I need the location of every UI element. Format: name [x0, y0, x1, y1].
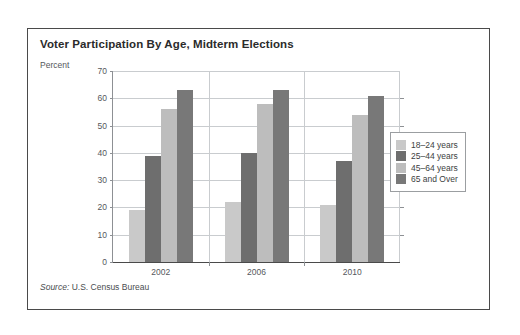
y-axis-tick-mark — [110, 98, 113, 99]
y-axis-tick-mark-right — [400, 126, 404, 127]
y-axis-tick-mark-right — [400, 207, 404, 208]
legend-swatch-icon — [396, 163, 406, 173]
chart-title: Voter Participation By Age, Midterm Elec… — [40, 38, 294, 50]
y-axis-tick-label: 10 — [98, 230, 107, 240]
y-axis-label: Percent — [40, 60, 69, 70]
bar — [241, 153, 257, 262]
y-axis-tick-mark — [110, 235, 113, 236]
chart-legend: 18–24 years25–44 years45–64 years65 and … — [390, 132, 466, 192]
y-axis-tick-label: 70 — [98, 66, 107, 76]
y-axis-tick-mark — [110, 71, 113, 72]
bar — [273, 90, 289, 262]
legend-label: 65 and Over — [411, 174, 458, 184]
legend-item: 45–64 years — [396, 163, 458, 173]
y-axis-tick-label: 50 — [98, 121, 107, 131]
legend-item: 65 and Over — [396, 174, 458, 184]
bar — [320, 205, 336, 262]
chart-figure-frame: Voter Participation By Age, Midterm Elec… — [27, 28, 490, 310]
source-note: Source: U.S. Census Bureau — [40, 282, 149, 292]
x-axis-tick-label: 2010 — [343, 267, 362, 277]
bar — [145, 156, 161, 262]
legend-swatch-icon — [396, 140, 406, 150]
bar — [257, 104, 273, 262]
bar-group-2002 — [129, 71, 193, 262]
bar — [352, 115, 368, 262]
y-axis-tick-mark — [110, 262, 113, 263]
bar-group-2006 — [225, 71, 289, 262]
y-axis-tick-mark — [110, 126, 113, 127]
bar-group-2010 — [320, 71, 384, 262]
y-axis-tick-label: 60 — [98, 93, 107, 103]
bar — [225, 202, 241, 262]
x-axis-tick-label: 2006 — [247, 267, 266, 277]
plot-area: 010203040506070200220062010 — [112, 71, 400, 263]
x-axis-tick-mark — [209, 262, 210, 266]
bar — [161, 109, 177, 262]
x-axis-tick-label: 2002 — [151, 267, 170, 277]
bars-layer — [113, 71, 400, 262]
bar — [368, 96, 384, 262]
y-axis-tick-label: 20 — [98, 202, 107, 212]
bar — [336, 161, 352, 262]
legend-item: 18–24 years — [396, 140, 458, 150]
legend-item: 25–44 years — [396, 151, 458, 161]
y-axis-tick-mark-right — [400, 235, 404, 236]
y-axis-tick-label: 0 — [102, 257, 107, 267]
y-axis-tick-mark-right — [400, 98, 404, 99]
x-axis-tick-mark — [304, 262, 305, 266]
y-axis-tick-mark — [110, 207, 113, 208]
legend-label: 45–64 years — [411, 163, 458, 173]
y-axis-tick-label: 30 — [98, 175, 107, 185]
source-prefix: Source: — [40, 282, 69, 292]
y-axis-tick-mark — [110, 180, 113, 181]
legend-swatch-icon — [396, 151, 406, 161]
legend-label: 18–24 years — [411, 140, 458, 150]
bar — [177, 90, 193, 262]
y-axis-tick-label: 40 — [98, 148, 107, 158]
source-text: U.S. Census Bureau — [69, 282, 149, 292]
bar — [129, 210, 145, 262]
y-axis-tick-mark — [110, 153, 113, 154]
legend-swatch-icon — [396, 174, 406, 184]
legend-label: 25–44 years — [411, 151, 458, 161]
